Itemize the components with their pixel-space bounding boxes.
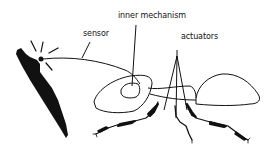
ant-thorax [148,86,196,100]
sensor-nerve-line [43,58,140,84]
sensor-label: sensor [83,30,109,38]
inner-mechanism-oval [121,83,140,98]
sensor-point [39,57,44,62]
ant-legs [93,102,250,143]
wall-surface [16,48,68,138]
ant-head [94,75,152,112]
sensor-label-pointer [82,42,90,58]
ant-abdomen [196,74,260,106]
ant-sensor-actuator-diagram: sensor inner mechanism actuators [0,0,276,148]
inner-mechanism-label: inner mechanism [118,12,186,20]
actuators-label: actuators [181,33,218,41]
diagram-drawing [0,0,276,148]
